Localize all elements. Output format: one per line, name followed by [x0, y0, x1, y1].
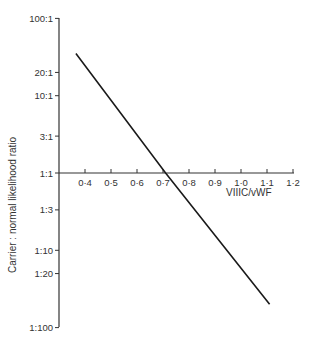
x-ticks: 0·40·50·60·70·80·91·01·11·2 — [78, 169, 300, 188]
y-tick-label: 1:20 — [35, 268, 54, 279]
x-tick-label: 1·2 — [286, 177, 300, 188]
y-tick-label: 100:1 — [29, 13, 53, 24]
x-tick-label: 0·7 — [156, 177, 170, 188]
y-tick-label: 20:1 — [35, 67, 54, 78]
y-tick-label: 1:3 — [40, 204, 53, 215]
y-axis-title: Carrier : normal likelihood ratio — [7, 136, 18, 273]
chart: 100:120:110:13:11:11:31:101:201:100 0·40… — [0, 0, 311, 341]
y-ticks: 100:120:110:13:11:11:31:101:201:100 — [29, 13, 59, 333]
y-tick-label: 10:1 — [35, 90, 54, 101]
x-tick-label: 0·4 — [78, 177, 92, 188]
y-tick-label: 1:1 — [40, 168, 53, 179]
x-tick-label: 0·6 — [130, 177, 144, 188]
x-tick-label: 0·5 — [104, 177, 118, 188]
x-tick-label: 0·8 — [182, 177, 196, 188]
y-tick-label: 1:10 — [35, 245, 54, 256]
x-tick-label: 0·9 — [208, 177, 222, 188]
y-tick-label: 3:1 — [40, 131, 53, 142]
y-tick-label: 1:100 — [29, 322, 53, 333]
x-axis-title: VIIIC/vWF — [226, 187, 272, 198]
